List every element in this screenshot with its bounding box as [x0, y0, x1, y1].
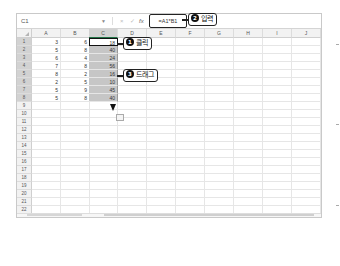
- cell-a15[interactable]: [32, 150, 61, 158]
- cell-d21[interactable]: [118, 198, 147, 206]
- cell-c8[interactable]: 40: [89, 94, 118, 102]
- cell-g9[interactable]: [205, 102, 234, 110]
- cell-a11[interactable]: [32, 118, 61, 126]
- cell-h19[interactable]: [234, 182, 263, 190]
- cell-e14[interactable]: [147, 142, 176, 150]
- cell-i14[interactable]: [263, 142, 292, 150]
- cell-f17[interactable]: [176, 166, 205, 174]
- cell-j4[interactable]: [292, 62, 321, 70]
- cell-i9[interactable]: [263, 102, 292, 110]
- row-header-4[interactable]: 4: [17, 62, 32, 70]
- cell-g16[interactable]: [205, 158, 234, 166]
- cell-h3[interactable]: [234, 54, 263, 62]
- cell-i17[interactable]: [263, 166, 292, 174]
- cell-i16[interactable]: [263, 158, 292, 166]
- cell-j14[interactable]: [292, 142, 321, 150]
- cell-f8[interactable]: [176, 94, 205, 102]
- cell-c6[interactable]: 10: [89, 78, 118, 86]
- cell-a9[interactable]: [32, 102, 61, 110]
- row-header-16[interactable]: 16: [17, 158, 32, 166]
- cell-b20[interactable]: [61, 190, 90, 198]
- cell-h16[interactable]: [234, 158, 263, 166]
- cell-f15[interactable]: [176, 150, 205, 158]
- cell-e15[interactable]: [147, 150, 176, 158]
- cell-g18[interactable]: [205, 174, 234, 182]
- cell-a13[interactable]: [32, 134, 61, 142]
- cell-i18[interactable]: [263, 174, 292, 182]
- cell-j10[interactable]: [292, 110, 321, 118]
- cell-h2[interactable]: [234, 46, 263, 54]
- cell-g1[interactable]: [205, 38, 234, 46]
- cell-f12[interactable]: [176, 126, 205, 134]
- cell-h20[interactable]: [234, 190, 263, 198]
- cell-a18[interactable]: [32, 174, 61, 182]
- cell-j18[interactable]: [292, 174, 321, 182]
- cell-f5[interactable]: [176, 70, 205, 78]
- cell-h8[interactable]: [234, 94, 263, 102]
- cell-j11[interactable]: [292, 118, 321, 126]
- cell-g14[interactable]: [205, 142, 234, 150]
- cell-e8[interactable]: [147, 94, 176, 102]
- row-header-19[interactable]: 19: [17, 182, 32, 190]
- cell-c15[interactable]: [89, 150, 118, 158]
- cell-a16[interactable]: [32, 158, 61, 166]
- cell-i5[interactable]: [263, 70, 292, 78]
- cell-i19[interactable]: [263, 182, 292, 190]
- cell-b1[interactable]: 6: [61, 38, 90, 46]
- cell-f19[interactable]: [176, 182, 205, 190]
- row-header-17[interactable]: 17: [17, 166, 32, 174]
- cell-f7[interactable]: [176, 86, 205, 94]
- cell-d8[interactable]: [118, 94, 147, 102]
- cell-i7[interactable]: [263, 86, 292, 94]
- cell-i3[interactable]: [263, 54, 292, 62]
- cell-f18[interactable]: [176, 174, 205, 182]
- cell-a6[interactable]: 2: [32, 78, 61, 86]
- column-header-c[interactable]: C: [89, 29, 118, 38]
- cell-a8[interactable]: 5: [32, 94, 61, 102]
- cell-d18[interactable]: [118, 174, 147, 182]
- cell-g2[interactable]: [205, 46, 234, 54]
- cell-c13[interactable]: [89, 134, 118, 142]
- cell-g15[interactable]: [205, 150, 234, 158]
- cell-d19[interactable]: [118, 182, 147, 190]
- cell-c20[interactable]: [89, 190, 118, 198]
- cell-e13[interactable]: [147, 134, 176, 142]
- cell-i8[interactable]: [263, 94, 292, 102]
- cell-e7[interactable]: [147, 86, 176, 94]
- cell-g13[interactable]: [205, 134, 234, 142]
- cell-b6[interactable]: 5: [61, 78, 90, 86]
- cell-e3[interactable]: [147, 54, 176, 62]
- row-header-5[interactable]: 5: [17, 70, 32, 78]
- cell-e16[interactable]: [147, 158, 176, 166]
- row-header-6[interactable]: 6: [17, 78, 32, 86]
- cell-i13[interactable]: [263, 134, 292, 142]
- cell-h4[interactable]: [234, 62, 263, 70]
- row-header-18[interactable]: 18: [17, 174, 32, 182]
- cell-g3[interactable]: [205, 54, 234, 62]
- cell-j1[interactable]: [292, 38, 321, 46]
- formula-input[interactable]: =A1*B1: [149, 14, 187, 28]
- cell-i12[interactable]: [263, 126, 292, 134]
- cell-j7[interactable]: [292, 86, 321, 94]
- row-header-12[interactable]: 12: [17, 126, 32, 134]
- cell-c10[interactable]: [89, 110, 118, 118]
- cell-j16[interactable]: [292, 158, 321, 166]
- cell-b13[interactable]: [61, 134, 90, 142]
- column-header-i[interactable]: I: [263, 29, 292, 38]
- cell-a7[interactable]: 5: [32, 86, 61, 94]
- horizontal-scrollbar[interactable]: [17, 213, 321, 217]
- cell-i21[interactable]: [263, 198, 292, 206]
- cell-a12[interactable]: [32, 126, 61, 134]
- cell-d3[interactable]: [118, 54, 147, 62]
- cell-g8[interactable]: [205, 94, 234, 102]
- cell-g10[interactable]: [205, 110, 234, 118]
- cell-i6[interactable]: [263, 78, 292, 86]
- cell-c12[interactable]: [89, 126, 118, 134]
- cell-h17[interactable]: [234, 166, 263, 174]
- cell-g12[interactable]: [205, 126, 234, 134]
- cell-f20[interactable]: [176, 190, 205, 198]
- cell-e11[interactable]: [147, 118, 176, 126]
- cell-b14[interactable]: [61, 142, 90, 150]
- cell-c21[interactable]: [89, 198, 118, 206]
- row-header-1[interactable]: 1: [17, 38, 32, 46]
